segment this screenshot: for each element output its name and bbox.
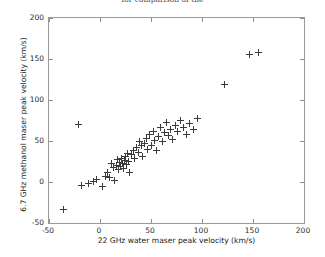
x-tick-bottom	[202, 219, 203, 223]
data-point	[106, 174, 113, 181]
x-tick-bottom	[100, 219, 101, 223]
y-tick-right	[300, 182, 304, 183]
data-point	[172, 122, 179, 129]
data-point	[99, 183, 106, 190]
data-point	[190, 126, 197, 133]
data-point	[143, 135, 150, 142]
data-point	[126, 169, 133, 176]
data-point	[60, 206, 67, 213]
data-point	[153, 147, 160, 154]
data-point	[135, 149, 142, 156]
data-point	[121, 157, 128, 164]
y-tick-right	[300, 100, 304, 101]
figure: for comparison of the 22 GHz water maser…	[0, 0, 325, 257]
y-tick-right	[300, 59, 304, 60]
data-point	[102, 173, 109, 180]
data-point	[177, 117, 184, 124]
x-tick	[151, 18, 152, 22]
data-point	[108, 160, 115, 167]
data-point	[155, 133, 162, 140]
data-point	[157, 124, 164, 131]
data-point	[167, 126, 174, 133]
y-tick-right	[300, 141, 304, 142]
data-point	[118, 155, 125, 162]
data-point	[117, 163, 124, 170]
data-point	[146, 131, 153, 138]
data-point	[161, 129, 168, 136]
data-point	[151, 137, 158, 144]
x-tick	[100, 18, 101, 22]
plot-area	[49, 18, 304, 223]
y-tick-label: -50	[32, 218, 44, 227]
data-point	[159, 138, 166, 145]
data-point	[78, 182, 85, 189]
data-point	[174, 128, 181, 135]
data-point	[122, 153, 129, 160]
data-point	[180, 124, 187, 131]
y-tick	[49, 182, 53, 183]
data-point	[125, 158, 132, 165]
x-tick-label: 200	[296, 226, 310, 235]
y-tick-label: 50	[34, 136, 44, 145]
data-point	[255, 49, 262, 56]
x-tick-label: 150	[245, 226, 259, 235]
data-point	[144, 146, 151, 153]
data-point	[90, 178, 97, 185]
data-point	[194, 115, 201, 122]
data-point	[169, 136, 176, 143]
data-point	[75, 121, 82, 128]
data-point	[104, 169, 111, 176]
chart-title: for comparison of the	[0, 0, 325, 4]
data-point	[115, 166, 122, 173]
data-point	[110, 164, 117, 171]
y-tick-right	[300, 18, 304, 19]
data-point	[165, 132, 172, 139]
y-tick-label: 150	[30, 54, 44, 63]
x-tick-bottom	[253, 219, 254, 223]
data-point	[111, 177, 118, 184]
y-tick-label: 100	[30, 95, 44, 104]
y-tick-label: 200	[30, 13, 44, 22]
x-tick-label: -50	[42, 226, 54, 235]
y-tick	[49, 100, 53, 101]
data-point	[133, 144, 140, 151]
data-point	[130, 147, 137, 154]
x-tick-label: 100	[194, 226, 208, 235]
data-point	[119, 160, 126, 167]
data-point	[150, 128, 157, 135]
y-tick	[49, 18, 53, 19]
data-point	[114, 156, 121, 163]
data-point	[183, 131, 190, 138]
data-point	[139, 153, 146, 160]
x-tick-label: 0	[97, 226, 102, 235]
x-tick	[253, 18, 254, 22]
y-tick	[49, 141, 53, 142]
data-point	[128, 151, 135, 158]
data-point	[116, 159, 123, 166]
y-axis-label: 6.7 GHz methanol maser peak velocity (km…	[19, 21, 28, 228]
data-point	[246, 51, 253, 58]
data-point	[138, 142, 145, 149]
data-point	[113, 162, 120, 169]
data-point	[131, 155, 138, 162]
data-point	[120, 165, 127, 172]
data-point	[93, 176, 100, 183]
data-point	[163, 119, 170, 126]
data-point	[221, 81, 228, 88]
y-tick	[49, 59, 53, 60]
data-point	[141, 140, 148, 147]
x-tick-bottom	[151, 219, 152, 223]
data-point	[148, 142, 155, 149]
data-point	[186, 120, 193, 127]
x-tick	[202, 18, 203, 22]
x-axis-label: 22 GHz water maser peak velocity (km/s)	[48, 236, 305, 245]
data-point	[124, 150, 131, 157]
x-tick-label: 50	[145, 226, 155, 235]
data-point	[85, 180, 92, 187]
y-tick-label: 0	[39, 177, 44, 186]
data-point	[123, 161, 130, 168]
plot-axes	[48, 17, 305, 224]
data-point	[136, 138, 143, 145]
